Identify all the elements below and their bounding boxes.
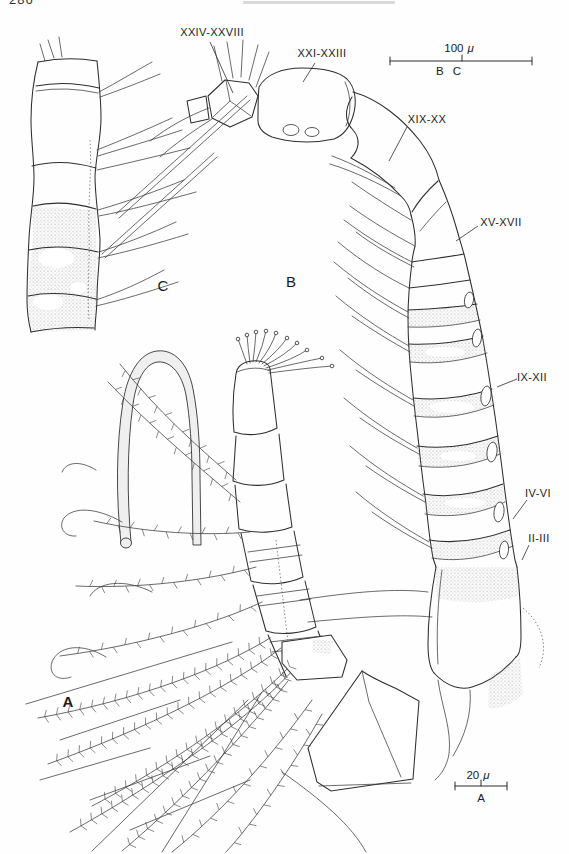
panel-c-drawing: [27, 37, 250, 332]
label-ix-xii: IX-XII: [517, 371, 547, 383]
label-xxiv-xxviii: XXIV-XXVIII: [180, 26, 244, 38]
panel-letter-b: B: [286, 273, 296, 290]
scale-bc-text: 100μ: [444, 42, 474, 54]
scale-a-text: 20μ: [466, 769, 490, 781]
scanned-paper-page: 286: [0, 0, 569, 854]
panel-a-drawing: [26, 329, 432, 852]
label-ii-iii: II-III: [528, 532, 549, 544]
label-xix-xx: XIX-XX: [408, 113, 447, 125]
panel-letter-a: A: [63, 693, 74, 710]
panel-letter-c: C: [158, 277, 169, 294]
scale-bar-bc: 100μ B C: [390, 42, 532, 77]
label-xxi-xxiii: XXI-XXIII: [298, 47, 347, 59]
scale-a-panels: A: [477, 792, 485, 804]
label-iv-vi: IV-VI: [525, 487, 551, 499]
label-xv-xvii: XV-XVII: [480, 216, 521, 228]
scale-bar-a: 20μ A: [455, 769, 507, 804]
figure-plate: XXIV-XXVIII XXI-XXIII XIX-XX XV-XVII IX-…: [0, 0, 569, 854]
scale-bc-panels: B C: [436, 65, 464, 77]
